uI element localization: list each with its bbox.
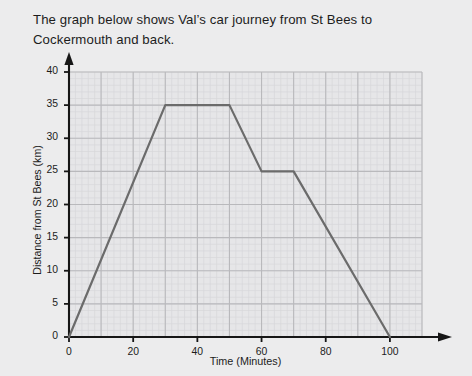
x-tick-label: 0 — [54, 346, 84, 357]
y-tick-label: 5 — [32, 297, 58, 308]
y-tick-label: 30 — [32, 131, 58, 142]
x-tick-label: 60 — [247, 346, 277, 357]
plot-area — [0, 52, 472, 376]
question-prompt: The graph below shows Val’s car journey … — [33, 10, 453, 50]
y-tick-label: 15 — [32, 231, 58, 242]
prompt-line-2: Cockermouth and back. — [33, 30, 453, 50]
y-tick-label: 40 — [32, 65, 58, 76]
prompt-line-1: The graph below shows Val’s car journey … — [33, 10, 453, 30]
y-tick-label: 10 — [32, 264, 58, 275]
x-tick-label: 100 — [375, 346, 405, 357]
y-tick-label: 0 — [32, 330, 58, 341]
distance-time-graph: Distance from St Bees (km) Time (Minutes… — [0, 52, 472, 376]
y-tick-label: 20 — [32, 198, 58, 209]
y-tick-label: 35 — [32, 98, 58, 109]
x-tick-label: 40 — [182, 346, 212, 357]
x-tick-label: 20 — [118, 346, 148, 357]
y-tick-label: 25 — [32, 164, 58, 175]
x-tick-label: 80 — [311, 346, 341, 357]
